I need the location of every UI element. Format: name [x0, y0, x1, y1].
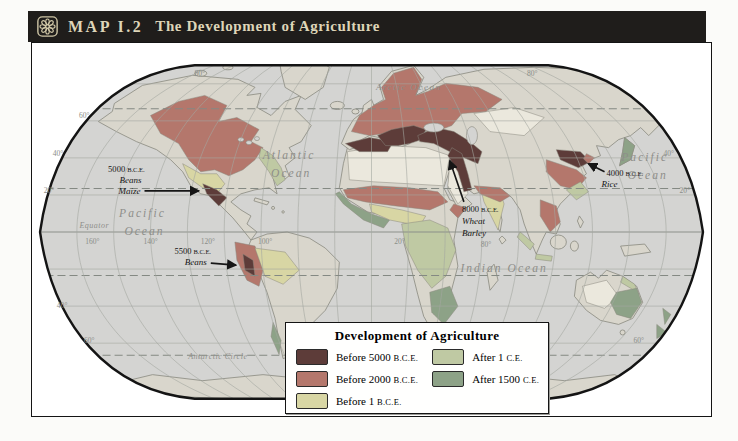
svg-text:5000B.C.E.: 5000B.C.E.	[108, 164, 145, 174]
svg-text:Barley: Barley	[462, 228, 486, 238]
svg-text:80°: 80°	[194, 69, 205, 78]
svg-text:80°: 80°	[527, 69, 538, 78]
map-panel: Arctic Ocean Atlantic Ocean Pacific Ocea…	[31, 42, 712, 417]
svg-text:Rice: Rice	[601, 179, 618, 189]
svg-text:Maize: Maize	[117, 186, 140, 196]
legend-item-before-2000: Before 2000 B.C.E.	[296, 371, 418, 387]
svg-text:Wheat: Wheat	[462, 216, 486, 226]
legend-item-before-5000: Before 5000 B.C.E.	[296, 349, 418, 365]
legend-item-after-1: After 1 C.E.	[432, 349, 539, 365]
svg-text:8000B.C.E.: 8000B.C.E.	[462, 204, 499, 214]
svg-text:4000B.C.E.: 4000B.C.E.	[607, 168, 644, 178]
svg-text:40°: 40°	[664, 149, 675, 158]
svg-text:160°: 160°	[85, 237, 99, 246]
svg-text:80°: 80°	[481, 240, 492, 249]
svg-text:140°: 140°	[143, 237, 157, 246]
map-header: MAP I.2 The Development of Agriculture	[28, 11, 706, 42]
svg-text:60°: 60°	[79, 111, 90, 120]
tasmania	[620, 330, 625, 335]
svg-text:20°: 20°	[44, 186, 55, 195]
svg-text:Ocean: Ocean	[271, 167, 311, 179]
pacific-ocean-east-label: Pacific	[620, 151, 668, 164]
borneo	[550, 235, 566, 249]
svg-text:Beans: Beans	[119, 175, 142, 185]
svg-text:5500B.C.E.: 5500B.C.E.	[174, 246, 211, 256]
legend-swatch	[432, 371, 464, 387]
svg-text:60°: 60°	[633, 337, 644, 346]
svg-text:Beans: Beans	[185, 257, 208, 267]
atlantic-ocean-label: Atlantic	[262, 149, 316, 161]
arctic-ocean-label: Arctic Ocean	[375, 82, 442, 92]
svg-text:100°: 100°	[258, 237, 272, 246]
svg-text:40°: 40°	[53, 149, 64, 158]
svg-text:20°: 20°	[680, 186, 691, 195]
svg-text:Ocean: Ocean	[124, 225, 164, 237]
antarctic-circle-label: Antarctic Circle	[187, 352, 247, 361]
legend-swatch	[432, 349, 464, 365]
equator-label: Equator	[78, 221, 109, 230]
legend-title: Development of Agriculture	[296, 328, 538, 344]
legend: Development of Agriculture Before 5000 B…	[285, 322, 549, 414]
legend-swatch	[296, 371, 328, 387]
svg-text:60°: 60°	[84, 337, 95, 346]
svg-text:40°: 40°	[57, 301, 68, 310]
indian-ocean-label: Indian Ocean	[459, 262, 547, 274]
legend-swatch	[296, 349, 328, 365]
ireland	[352, 109, 359, 114]
legend-item-after-1500: After 1500 C.E.	[432, 371, 539, 387]
legend-swatch	[296, 393, 328, 409]
svg-text:120°: 120°	[201, 237, 215, 246]
pacific-ocean-west-label: Pacific	[118, 207, 166, 220]
map-number-label: MAP I.2	[68, 18, 143, 36]
svg-text:20°: 20°	[394, 237, 405, 246]
map-title: The Development of Agriculture	[155, 18, 380, 35]
legend-item-before-1: Before 1 B.C.E.	[296, 393, 418, 409]
flower-icon	[37, 16, 58, 37]
